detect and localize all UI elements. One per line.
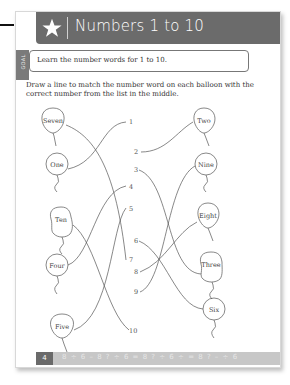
number-7: 7	[129, 256, 133, 264]
balloon-label: Nine	[198, 161, 214, 169]
line-two-2	[141, 122, 193, 152]
number-9: 9	[134, 288, 138, 296]
balloon-six[interactable]	[203, 298, 225, 338]
number-5: 5	[129, 205, 133, 213]
balloon-label: Four	[49, 262, 65, 270]
line-three-3	[139, 170, 201, 274]
balloon-label: Ten	[55, 216, 67, 224]
balloon-seven[interactable]	[42, 108, 64, 146]
balloon-label: Eight	[199, 212, 217, 220]
line-ten-10	[73, 225, 129, 330]
number-10: 10	[129, 327, 137, 335]
line-one-1	[68, 122, 126, 169]
number-3: 3	[134, 166, 138, 174]
footer-decoration: 8 ÷ 6 – 8 ? ÷ 6 = 8 ? ÷ 6 ÷ = 8 ? – ÷ 6	[62, 353, 238, 361]
balloon-two[interactable]	[194, 108, 215, 146]
balloon-eight[interactable]	[198, 203, 219, 241]
page-edge-mark	[0, 24, 14, 26]
balloon-ten[interactable]	[50, 207, 72, 254]
balloon-nine[interactable]	[195, 153, 217, 192]
line-five-5	[74, 208, 126, 330]
number-6: 6	[134, 237, 138, 245]
line-seven-7	[66, 125, 126, 260]
number-1: 1	[129, 118, 133, 126]
worksheet-page: Numbers 1 to 10 GOAL Learn the number wo…	[15, 11, 281, 368]
balloon-three[interactable]	[200, 252, 222, 299]
page-number: 4	[36, 352, 53, 365]
balloon-label: Two	[197, 117, 211, 125]
balloon-five[interactable]	[50, 314, 73, 352]
line-six-6	[139, 241, 203, 309]
balloon-label: Six	[209, 306, 220, 314]
balloon-label: One	[50, 161, 64, 169]
balloon-four[interactable]	[46, 254, 68, 294]
balloon-label: Three	[201, 261, 220, 269]
matching-diagram: Seven One Ten Four Five Two Nine Eight T…	[16, 12, 280, 352]
line-four-4	[68, 186, 126, 265]
balloon-one[interactable]	[46, 153, 68, 192]
footer-bar: 4 8 ÷ 6 – 8 ? ÷ 6 = 8 ? ÷ 6 ÷ = 8 ? – ÷ …	[36, 352, 280, 365]
number-2: 2	[134, 148, 138, 156]
balloon-label: Five	[55, 323, 69, 331]
balloon-label: Seven	[43, 117, 63, 125]
number-4: 4	[129, 183, 133, 191]
number-8: 8	[134, 268, 138, 276]
